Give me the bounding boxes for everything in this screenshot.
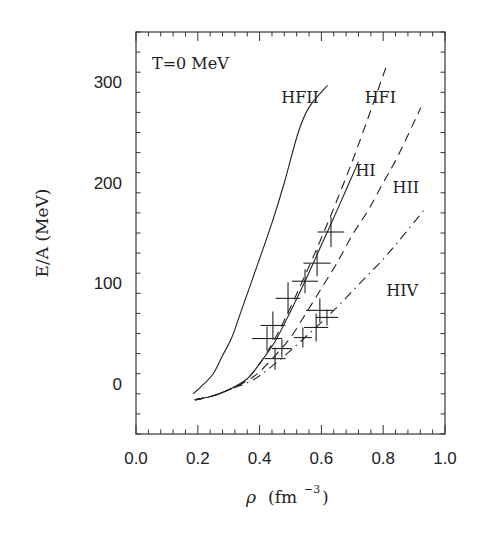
curve-label-hfii: HFII: [281, 88, 319, 107]
x-tick-labels: 0.00.20.40.60.81.0: [124, 449, 457, 468]
x-axis-label: ρ (fm −3 ): [245, 483, 329, 507]
data-point: [306, 298, 334, 322]
x-axis-label-symbol: ρ: [245, 487, 256, 507]
data-point: [261, 311, 286, 339]
y-axis-label: E/A (MeV): [32, 189, 52, 278]
data-point: [252, 326, 282, 350]
curve-label-hi: HI: [355, 161, 375, 180]
data-point: [276, 282, 301, 314]
x-tick-label: 0.2: [186, 449, 210, 468]
curve-labels: HFIIHFIHIHIIHIV: [281, 88, 419, 300]
x-tick-label: 0.6: [310, 449, 334, 468]
data-point: [318, 217, 345, 247]
x-tick-label: 0.4: [248, 449, 272, 468]
model-curves: [193, 62, 423, 400]
data-point: [292, 269, 318, 293]
x-axis-label-unit: (fm: [268, 487, 297, 507]
curve-hiv: [195, 211, 424, 400]
curve-label-hiv: HIV: [386, 281, 418, 300]
curve-hfii: [193, 85, 327, 394]
curve-label-hfi: HFI: [365, 88, 396, 107]
chart: 0.00.20.40.60.81.0 0100200300 HFIIHFIHIH…: [0, 0, 489, 547]
y-tick-label: 200: [94, 174, 122, 193]
x-tick-label: 0.8: [371, 449, 395, 468]
x-tick-label: 1.0: [433, 449, 457, 468]
chart-title: T=0 MeV: [152, 54, 229, 73]
curve-hi: [195, 162, 359, 400]
x-axis-label-close: ): [322, 487, 329, 507]
data-point: [316, 309, 338, 325]
x-tick-label: 0.0: [124, 449, 148, 468]
y-tick-labels: 0100200300: [94, 73, 122, 394]
y-tick-label: 100: [94, 274, 122, 293]
x-axis-label-exponent: −3: [304, 483, 320, 496]
data-point: [294, 327, 312, 347]
curve-hii: [195, 107, 421, 399]
data-point: [303, 250, 330, 276]
curve-label-hii: HII: [392, 178, 419, 197]
y-tick-label: 300: [94, 73, 122, 92]
y-tick-label: 0: [113, 375, 122, 394]
